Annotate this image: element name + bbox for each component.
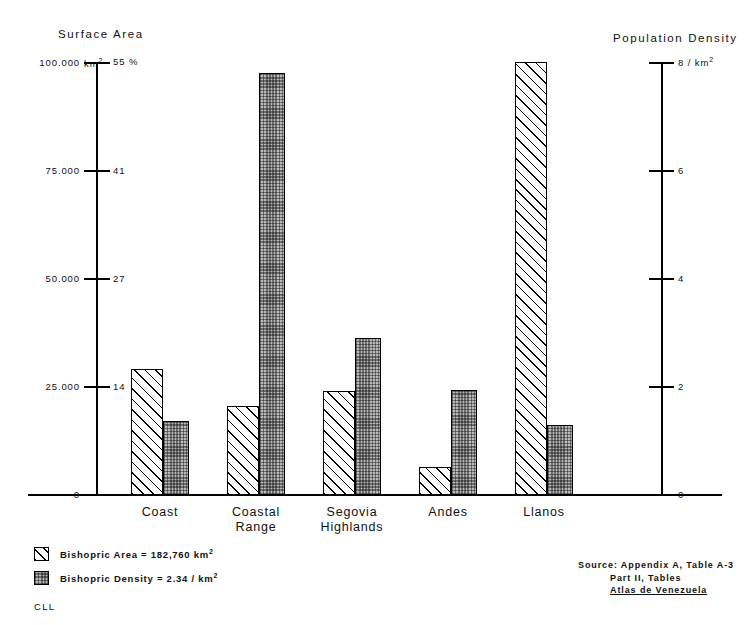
bar-area-andes	[419, 467, 451, 495]
bar-density-andes	[451, 390, 477, 495]
source-line-2: Part II, Tables	[610, 572, 734, 585]
bar-density-coast	[163, 421, 189, 495]
hatch-swatch-icon	[34, 547, 49, 561]
bar-density-llanos	[547, 425, 573, 495]
category-line: Llanos	[469, 505, 619, 520]
category-line: Highlands	[277, 520, 427, 535]
author-credit: CLL	[34, 601, 55, 612]
source-note: Source: Appendix A, Table A-3 Part II, T…	[578, 559, 734, 597]
bar-density-coastal-range	[259, 73, 285, 495]
legend-density-label: Bishopric Density = 2.34 / km2	[60, 572, 217, 584]
bar-area-coastal-range	[227, 406, 259, 495]
source-line-1: Source: Appendix A, Table A-3	[578, 560, 734, 570]
bar-chart-figure: Surface Area Population Density 100.000 …	[0, 0, 750, 625]
source-line-3: Atlas de Venezuela	[610, 584, 707, 597]
bar-area-llanos	[515, 62, 547, 495]
bar-density-segovia-highlands	[355, 338, 381, 495]
bar-area-segovia-highlands	[323, 391, 355, 495]
bar-area-coast	[131, 369, 163, 495]
stipple-swatch-icon	[34, 571, 49, 585]
category-label-llanos: Llanos	[469, 505, 619, 520]
legend-area-label: Bishopric Area = 182,760 km2	[60, 548, 213, 560]
